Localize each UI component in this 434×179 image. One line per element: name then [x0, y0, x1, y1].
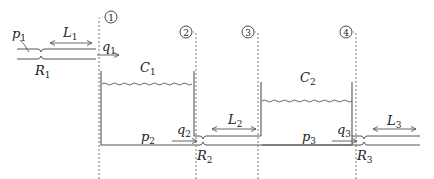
- label-q2: q2: [177, 122, 191, 139]
- label-p1: p1: [12, 26, 26, 43]
- outlet-pipe-3: [262, 136, 420, 145]
- inlet-pipe-1: [17, 49, 96, 59]
- label-L3: L3: [386, 113, 402, 130]
- svg-text:4: 4: [343, 28, 349, 38]
- two-tank-system-diagram: 1 2 3 4 p1 L1 q1 R1 C1 C2 p2 q2 L2 R2 p3…: [0, 0, 434, 179]
- tank-1-liquid-surface: [102, 83, 192, 85]
- label-q1: q1: [102, 39, 116, 56]
- label-q3: q3: [337, 122, 351, 139]
- section-marker-1: 1: [105, 11, 117, 23]
- connecting-pipe-2: [192, 136, 262, 145]
- section-line-4: [353, 32, 356, 179]
- section-marker-3: 3: [242, 26, 254, 38]
- section-marker-2: 2: [180, 26, 192, 38]
- label-L2: L2: [227, 112, 242, 129]
- label-R2: R2: [196, 148, 213, 165]
- label-C1: C1: [140, 60, 156, 77]
- section-line-3: [255, 32, 258, 179]
- svg-text:3: 3: [245, 28, 251, 38]
- svg-text:2: 2: [183, 28, 189, 38]
- label-p2: p2: [141, 129, 155, 146]
- label-R3: R3: [356, 148, 373, 165]
- svg-text:1: 1: [108, 13, 114, 23]
- tank-2-liquid-surface: [262, 100, 352, 102]
- section-marker-4: 4: [340, 26, 352, 38]
- label-C2: C2: [300, 70, 316, 87]
- label-L1: L1: [62, 25, 77, 42]
- label-R1: R1: [34, 63, 51, 80]
- label-p3: p3: [302, 129, 316, 146]
